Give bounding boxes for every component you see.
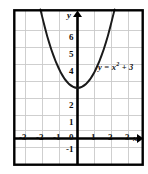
equation-base: y = x: [98, 62, 116, 72]
x-axis-label: x: [133, 134, 138, 143]
y-axis-label: y: [67, 11, 71, 20]
equation-tail: + 3: [119, 62, 133, 72]
equation-annotation: y = x2 + 3: [98, 62, 133, 72]
y-tick-label-6: 6: [69, 33, 74, 42]
x-tick-label--1: -1: [53, 133, 61, 142]
y-tick-label-2: 2: [69, 101, 74, 110]
y-tick-label-4: 4: [69, 67, 74, 76]
x-tick-label-2: 2: [108, 133, 113, 142]
y-tick-label-5: 5: [69, 50, 74, 59]
y-tick-label--1: -1: [66, 145, 74, 154]
x-tick-label--2: -2: [36, 133, 44, 142]
x-tick-label-0: 0: [69, 133, 74, 142]
y-tick-label-1: 1: [69, 118, 74, 127]
coordinate-plane: [0, 0, 148, 174]
x-tick-label-3: 3: [125, 133, 130, 142]
x-tick-label--3: -3: [19, 133, 27, 142]
x-tick-label-1: 1: [91, 133, 96, 142]
graph-figure: -3 -2 -1 0 1 2 3 6 5 4 2 1 -1 y x y = x2…: [0, 0, 148, 174]
